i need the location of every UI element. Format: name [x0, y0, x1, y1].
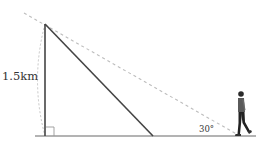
hypotenuse: [45, 24, 153, 136]
person-icon: [235, 91, 252, 136]
height-label: 1.5km: [2, 69, 38, 83]
sight-line: [24, 13, 240, 136]
triangle-diagram: 1.5km 30°: [0, 0, 265, 148]
height-arc: [38, 24, 46, 136]
angle-label: 30°: [199, 124, 214, 134]
right-angle-marker: [46, 127, 54, 136]
